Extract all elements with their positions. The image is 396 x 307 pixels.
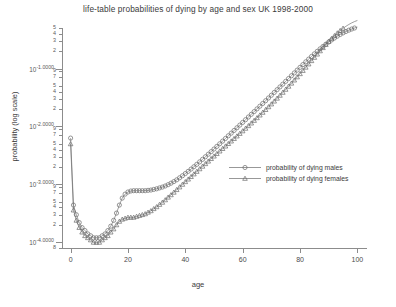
y-tick-label-minor: 3 <box>42 38 56 43</box>
circle-marker-icon <box>228 162 262 173</box>
x-tick <box>128 248 129 253</box>
x-tick <box>243 248 244 253</box>
x-tick <box>185 248 186 253</box>
y-tick-label-minor: 4 <box>42 31 56 36</box>
x-tick <box>300 248 301 253</box>
y-tick-label-minor: 4 <box>42 204 56 209</box>
y-tick-label-minor: 2 <box>42 222 56 227</box>
x-tick-label: 20 <box>124 256 132 263</box>
triangle-marker-icon <box>228 173 262 184</box>
y-tick-label-minor: 3 <box>42 212 56 217</box>
legend-label: probability of dying females <box>262 175 348 182</box>
y-axis-title: probability (log scale) <box>10 67 19 187</box>
x-tick-label: 40 <box>181 256 189 263</box>
y-tick-label-minor: 2 <box>42 48 56 53</box>
x-axis-title: age <box>0 280 396 289</box>
legend-label: probability of dying males <box>262 164 343 171</box>
chart-legend: probability of dying malesprobability of… <box>228 162 348 184</box>
legend-item[interactable]: probability of dying males <box>228 162 348 173</box>
x-tick-label: 60 <box>239 256 247 263</box>
series-line <box>71 27 358 238</box>
y-tick-label-minor: 3 <box>42 96 56 101</box>
y-tick-label-minor: 7 <box>42 190 56 195</box>
y-tick-label-minor: 2 <box>42 106 56 111</box>
y-tick-label-minor: 3 <box>42 154 56 159</box>
chart-figure: life-table probabilities of dying by age… <box>0 0 396 307</box>
y-tick-minor <box>59 248 62 249</box>
y-tick-label-minor: 8 <box>42 245 56 250</box>
chart-title: life-table probabilities of dying by age… <box>0 4 396 14</box>
y-tick-label-minor: 2 <box>42 164 56 169</box>
x-tick <box>357 248 358 253</box>
legend-item[interactable]: probability of dying females <box>228 173 348 184</box>
x-tick <box>71 248 72 253</box>
y-tick-label-minor: 7 <box>42 132 56 137</box>
y-tick-label-minor: 4 <box>42 147 56 152</box>
data-series-layer <box>62 28 366 248</box>
plot-area <box>62 28 366 248</box>
x-tick-label: 100 <box>352 256 364 263</box>
y-tick-label-minor: 4 <box>42 89 56 94</box>
y-tick-label-minor: 7 <box>42 74 56 79</box>
x-tick-label: 0 <box>69 256 73 263</box>
x-axis-line <box>62 248 367 249</box>
x-tick-label: 80 <box>296 256 304 263</box>
